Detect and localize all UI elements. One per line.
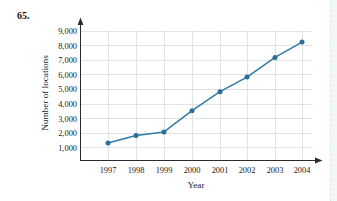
page-edge-band [331, 0, 337, 201]
y-tick-label-2000: 2,000 [58, 129, 77, 138]
x-axis-title: Year [188, 180, 205, 190]
data-point-2004 [300, 40, 305, 45]
y-tick-label-9000: 9,000 [58, 27, 77, 36]
chart-svg: 9,000 8,000 7,000 6,000 5,000 4,000 3,00… [0, 0, 337, 201]
x-tick-label-1998: 1998 [128, 166, 145, 175]
figure-root: 65. [0, 0, 337, 201]
x-axis-tick-labels: 1997 1998 1999 2000 2001 2002 2003 2004 [100, 166, 312, 175]
line-chart: 9,000 8,000 7,000 6,000 5,000 4,000 3,00… [0, 0, 337, 201]
y-axis-title: Number of locations [40, 55, 50, 131]
y-axis-arrowhead [78, 18, 84, 26]
vertical-gridlines [108, 31, 302, 160]
x-tick-label-2000: 2000 [184, 166, 201, 175]
y-axis-tick-labels: 9,000 8,000 7,000 6,000 5,000 4,000 3,00… [58, 27, 77, 153]
y-tick-label-8000: 8,000 [58, 42, 77, 51]
x-tick-label-2001: 2001 [212, 166, 229, 175]
x-tick-label-1997: 1997 [100, 166, 117, 175]
x-tick-label-2002: 2002 [239, 166, 256, 175]
data-point-1997 [106, 140, 111, 145]
y-tick-label-3000: 3,000 [58, 115, 77, 124]
y-tick-label-1000: 1,000 [58, 144, 77, 153]
x-tick-label-2004: 2004 [294, 166, 312, 175]
y-tick-label-4000: 4,000 [58, 100, 77, 109]
y-tick-label-6000: 6,000 [58, 71, 77, 80]
x-axis-arrowhead [315, 158, 323, 164]
data-point-2001 [218, 89, 223, 94]
x-tick-label-1999: 1999 [156, 166, 173, 175]
data-point-1998 [134, 133, 139, 138]
data-point-2003 [273, 55, 278, 60]
y-tick-label-7000: 7,000 [58, 56, 77, 65]
x-tick-label-2003: 2003 [267, 166, 284, 175]
page-edge-rule [330, 0, 331, 201]
y-tick-label-5000: 5,000 [58, 85, 77, 94]
data-point-2002 [245, 75, 250, 80]
data-point-1999 [162, 129, 167, 134]
data-point-2000 [190, 108, 195, 113]
horizontal-gridlines [81, 31, 313, 148]
